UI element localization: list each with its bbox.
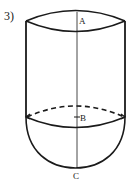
middle-ellipse-back-dashed (27, 106, 124, 117)
top-ellipse-back (26, 11, 125, 22)
problem-number: 3) (4, 9, 14, 23)
hemisphere-bottom (26, 117, 125, 168)
cylinder-hemisphere-diagram: 3) A B C (0, 0, 139, 183)
top-ellipse-front (26, 21, 125, 32)
point-b-label: B (80, 113, 86, 123)
point-c-label: C (73, 171, 79, 181)
point-a-label: A (79, 16, 86, 26)
middle-ellipse-front (26, 117, 125, 128)
